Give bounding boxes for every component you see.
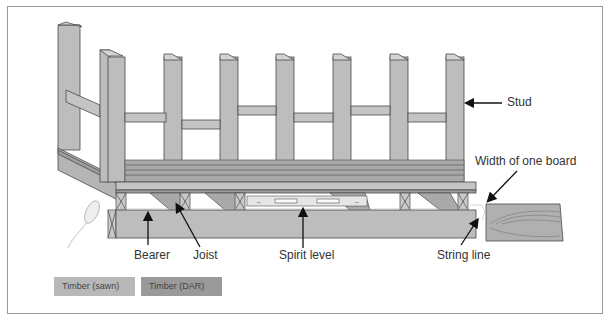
label-joist: Joist: [193, 248, 218, 262]
spirit-level: ⇔ ⇔: [247, 196, 367, 206]
floor-edge: [116, 182, 476, 193]
floor-boards: [125, 160, 464, 182]
legend-label: Timber (sawn): [62, 281, 119, 291]
legend-label: Timber (DAR): [149, 281, 204, 291]
label-width-of-one-board: Width of one board: [475, 154, 576, 168]
label-stud: Stud: [507, 95, 532, 109]
svg-text:⇔: ⇔: [354, 199, 360, 205]
label-string-line: String line: [437, 248, 490, 262]
bearer: [116, 210, 476, 238]
label-bearer: Bearer: [134, 248, 170, 262]
legend-timber-sawn: Timber (sawn): [54, 277, 135, 296]
svg-text:⇔: ⇔: [256, 199, 262, 205]
label-spirit-level: Spirit level: [279, 248, 334, 262]
string-ball: [68, 199, 103, 248]
legend-timber-dar: Timber (DAR): [141, 277, 222, 296]
board-sample: [486, 204, 563, 241]
